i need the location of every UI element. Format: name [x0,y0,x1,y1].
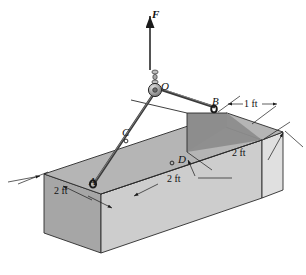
hook-ring-hole [153,88,158,93]
crate-box [44,100,283,253]
point-label-A: A [89,176,96,187]
dim-label-2ft-right: 2 ft [232,148,246,158]
point-label-C: C [122,127,129,138]
chain-link-2 [153,74,157,79]
dim-label-2ft-left: 2 ft [54,186,68,196]
point-label-B: B [212,96,219,107]
dim-label-2ft-front: 2 ft [167,174,181,184]
dim-left-edge-arrow [8,176,40,182]
hook-assembly [148,70,161,97]
crate-face-right-end [262,132,283,198]
point-label-D: D [178,154,186,165]
force-label: F [152,9,159,20]
point-marker-C [124,139,128,143]
dim-label-1ft: 1 ft [244,99,258,109]
ext-2ft-r-b [285,131,303,147]
figure-canvas: F O A B C D 1 ft 2 ft 2 ft 2 ft [0,0,306,275]
chain-link-1 [152,70,158,74]
ext-2ft-l-a [18,172,48,184]
point-label-O: O [161,81,169,92]
cable-O-B [162,90,214,107]
cable-O-B-hi [162,89,213,106]
diagram-svg [0,0,306,275]
